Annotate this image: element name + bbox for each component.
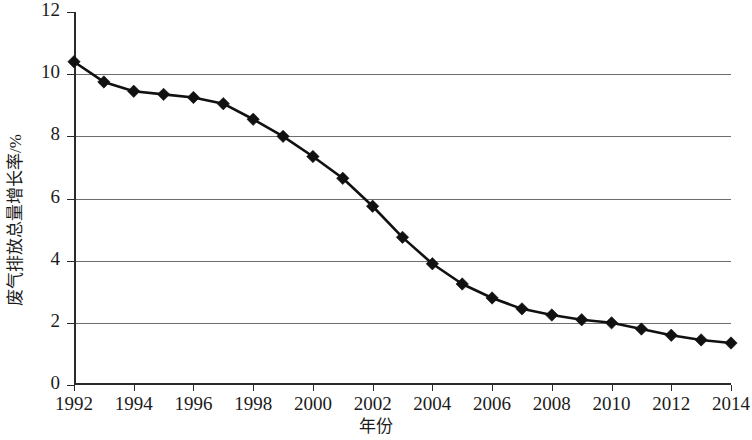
y-tick-mark-2 — [67, 323, 74, 324]
x-tick-mark-2006 — [492, 385, 493, 391]
x-tick-mark-1996 — [193, 385, 194, 391]
data-point-2010 — [605, 317, 617, 329]
data-point-2011 — [635, 323, 647, 335]
x-tick-mark-1998 — [253, 385, 254, 391]
x-tick-mark-2014 — [731, 385, 732, 391]
y-tick-label-2: 2 — [0, 310, 60, 332]
x-tick-mark-2008 — [552, 385, 553, 391]
x-tick-mark-2012 — [671, 385, 672, 391]
x-tick-mark-1992 — [74, 385, 75, 391]
y-tick-mark-10 — [67, 74, 74, 75]
data-point-2014 — [725, 337, 737, 349]
plot-area — [74, 12, 731, 385]
x-tick-mark-2004 — [432, 385, 433, 391]
data-point-2006 — [486, 292, 498, 304]
data-point-1994 — [128, 85, 140, 97]
data-point-2012 — [665, 329, 677, 341]
y-tick-label-0: 0 — [0, 372, 60, 394]
x-tick-mark-1994 — [134, 385, 135, 391]
data-point-2008 — [546, 309, 558, 321]
y-tick-label-6: 6 — [0, 186, 60, 208]
data-point-1995 — [157, 88, 169, 100]
data-series-group — [74, 12, 731, 385]
data-point-2007 — [516, 303, 528, 315]
y-tick-mark-8 — [67, 136, 74, 137]
data-point-2009 — [575, 314, 587, 326]
y-tick-label-4: 4 — [0, 248, 60, 270]
data-point-1996 — [187, 91, 199, 103]
data-point-1998 — [247, 113, 259, 125]
y-tick-mark-6 — [67, 199, 74, 200]
y-tick-mark-12 — [67, 12, 74, 13]
chart-figure: 废气排放总量增长率/% 024681012 199219941996199820… — [0, 0, 752, 440]
series-line — [74, 62, 731, 343]
x-tick-mark-2010 — [612, 385, 613, 391]
x-axis-title: 年份 — [0, 412, 752, 437]
y-tick-label-8: 8 — [0, 123, 60, 145]
y-tick-label-12: 12 — [0, 0, 60, 21]
y-tick-mark-4 — [67, 261, 74, 262]
x-tick-mark-2002 — [373, 385, 374, 391]
data-point-1997 — [217, 98, 229, 110]
y-tick-label-10: 10 — [0, 61, 60, 83]
data-point-2013 — [695, 334, 707, 346]
x-tick-mark-2000 — [313, 385, 314, 391]
y-tick-mark-0 — [67, 385, 74, 386]
